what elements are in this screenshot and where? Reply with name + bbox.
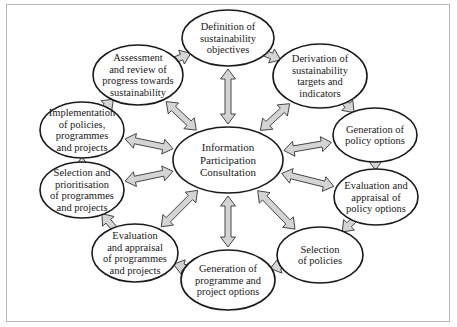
node-label-line: progress towards	[102, 75, 173, 86]
spoke-arrow-selection-prioritisation	[125, 166, 173, 187]
node-label-line: project options	[197, 286, 260, 297]
nodes: Definition ofsustainabilityobjectivesDer…	[40, 10, 418, 310]
node-label-line: sustainability	[110, 87, 167, 98]
node-label-line: and appraisal	[107, 242, 163, 253]
node-derivation: Derivation ofsustainabilitytargets andin…	[273, 44, 367, 108]
node-label-line: sustainability	[292, 65, 349, 76]
node-label-line: of programmes	[103, 253, 167, 264]
node-definition: Definition ofsustainabilityobjectives	[182, 10, 274, 66]
spoke-arrow-assessment	[166, 102, 196, 131]
node-label-line: appraisal of	[351, 192, 401, 203]
node-label-line: Selection and	[54, 167, 112, 178]
node-label-line: and projects	[56, 142, 107, 153]
node-label-line: Selection	[300, 244, 340, 255]
node-label-line: indicators	[299, 88, 340, 99]
node-label-line: Evaluation and	[344, 180, 408, 191]
spoke-arrow-definition	[221, 69, 236, 124]
node-label-line: Consultation	[200, 166, 257, 178]
node-label-line: programme and	[195, 275, 262, 286]
node-label-line: Assessment	[113, 52, 163, 63]
node-label-line: programmes	[56, 130, 109, 141]
node-evaluation-policy: Evaluation andappraisal ofpolicy options	[334, 169, 418, 225]
node-label-line: prioritisation	[55, 179, 110, 190]
node-label-line: of policies	[298, 255, 342, 266]
node-label-line: Definition of	[201, 21, 256, 32]
node-selection-prioritisation: Selection andprioritisationof programmes…	[40, 162, 124, 218]
spoke-arrow-derivation	[260, 104, 289, 131]
node-label-line: Generation of	[199, 263, 258, 274]
node-label-line: objectives	[207, 44, 250, 55]
node-generation-programme: Generation ofprogramme andproject option…	[181, 250, 275, 310]
spoke-arrow-implementation	[125, 134, 173, 155]
spoke-arrow-generation-policy	[284, 137, 332, 157]
node-label-line: and projects	[56, 202, 107, 213]
spoke-arrow-selection-policies	[258, 191, 295, 230]
node-label-line: targets and	[297, 76, 343, 87]
node-label-line: of programmes	[50, 190, 114, 201]
node-label-line: Derivation of	[292, 53, 349, 64]
node-label-line: policy options	[345, 135, 405, 146]
node-label-line: Participation	[200, 154, 257, 166]
node-label-line: policy options	[346, 203, 406, 214]
node-label-line: Evaluation	[112, 230, 158, 241]
node-implementation: Implementationof policies,programmesand …	[40, 102, 124, 158]
spoke-arrow-evaluation-programmes	[161, 190, 197, 226]
node-label-line: and projects	[109, 265, 160, 276]
node-generation-policy: Generation ofpolicy options	[333, 108, 417, 162]
node-assessment: Assessmentand review ofprogress towardss…	[93, 45, 183, 105]
node-label-line: and review of	[109, 64, 167, 75]
spoke-arrow-evaluation-policy	[282, 169, 334, 192]
spoke-arrow-generation-programme	[221, 196, 236, 247]
node-selection-policies: Selectionof policies	[277, 227, 363, 283]
sustainability-cycle-diagram: Definition ofsustainabilityobjectivesDer…	[0, 0, 457, 327]
center-node: InformationParticipationConsultation	[173, 127, 283, 193]
node-evaluation-programmes: Evaluationand appraisalof programmesand …	[92, 224, 178, 282]
node-label-line: of policies,	[59, 119, 106, 130]
node-label-line: Generation of	[346, 124, 405, 135]
node-label-line: Information	[202, 141, 255, 153]
node-label-line: sustainability	[200, 33, 257, 44]
node-label-line: Implementation	[49, 107, 116, 118]
